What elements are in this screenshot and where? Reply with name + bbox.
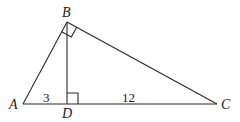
vertex-label-c: C (221, 97, 231, 112)
vertex-label-a: A (8, 97, 18, 112)
right-angle-marker-d (67, 93, 78, 104)
vertex-label-b: B (62, 5, 71, 20)
vertex-label-d: D (61, 106, 72, 121)
segment-bc (67, 22, 217, 104)
length-label-dc: 12 (122, 90, 135, 105)
length-label-ad: 3 (43, 90, 50, 105)
triangle-diagram: B A D C 3 12 (0, 0, 240, 122)
